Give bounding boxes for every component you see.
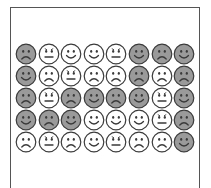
gray-happy-face-icon [173, 43, 195, 65]
white-happy-face-icon [60, 43, 82, 65]
gray-sad-face-icon [38, 109, 60, 131]
white-neutral-face-icon [38, 131, 60, 153]
white-happy-face-icon [128, 109, 150, 131]
white-neutral-face-icon [105, 131, 127, 153]
white-neutral-face-icon [151, 87, 173, 109]
gray-happy-face-icon [173, 87, 195, 109]
white-neutral-face-icon [151, 109, 173, 131]
face-grid [15, 43, 196, 153]
gray-happy-face-icon [128, 87, 150, 109]
white-neutral-face-icon [38, 87, 60, 109]
white-neutral-face-icon [38, 43, 60, 65]
gray-happy-face-icon [83, 87, 105, 109]
white-happy-face-icon [83, 131, 105, 153]
gray-happy-face-icon [173, 131, 195, 153]
white-sad-face-icon [128, 131, 150, 153]
white-sad-face-icon [83, 65, 105, 87]
gray-sad-face-icon [60, 87, 82, 109]
white-sad-face-icon [38, 65, 60, 87]
white-sad-face-icon [151, 65, 173, 87]
gray-sad-face-icon [151, 43, 173, 65]
white-sad-face-icon [15, 131, 37, 153]
gray-happy-face-icon [15, 109, 37, 131]
gray-happy-face-icon [15, 65, 37, 87]
white-sad-face-icon [60, 131, 82, 153]
gray-happy-face-icon [128, 43, 150, 65]
gray-sad-face-icon [15, 87, 37, 109]
gray-sad-face-icon [128, 65, 150, 87]
white-sad-face-icon [151, 131, 173, 153]
white-neutral-face-icon [105, 43, 127, 65]
gray-sad-face-icon [173, 65, 195, 87]
gray-sad-face-icon [173, 109, 195, 131]
gray-happy-face-icon [60, 109, 82, 131]
white-neutral-face-icon [60, 65, 82, 87]
gray-sad-face-icon [15, 43, 37, 65]
white-happy-face-icon [105, 109, 127, 131]
white-happy-face-icon [83, 109, 105, 131]
white-sad-face-icon [105, 65, 127, 87]
gray-sad-face-icon [105, 87, 127, 109]
white-happy-face-icon [83, 43, 105, 65]
